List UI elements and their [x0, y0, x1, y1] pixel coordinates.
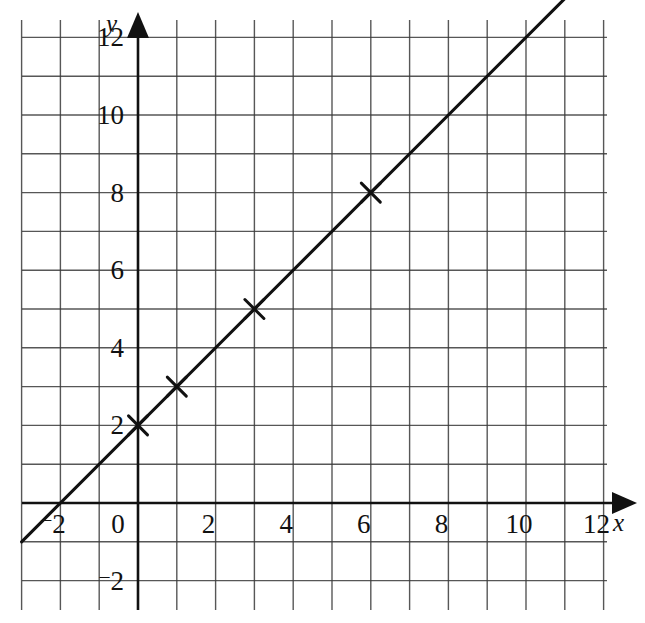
x-tick-label: 6: [357, 509, 371, 539]
x-tick-label: 2: [202, 509, 216, 539]
x-tick-label: 8: [435, 509, 449, 539]
x-axis-label: x: [612, 509, 624, 536]
y-tick-label: 8: [111, 178, 125, 208]
y-tick-label: 10: [97, 100, 124, 130]
y-tick-label: 2: [111, 410, 125, 440]
x-tick-label: 12: [583, 509, 610, 539]
x-tick-label: –2: [40, 508, 66, 539]
y-axis-arrowhead: [127, 12, 149, 38]
y-tick-label: 6: [111, 255, 125, 285]
coordinate-plane: –202468101212108642–2 x y: [0, 0, 645, 623]
x-tick-label: 10: [506, 509, 533, 539]
y-axis-label: y: [103, 10, 118, 37]
x-tick-label: 4: [279, 509, 293, 539]
y-tick-label: 4: [111, 333, 125, 363]
y-tick-label: –2: [99, 565, 125, 596]
x-tick-label: 0: [111, 509, 125, 539]
graph-figure: –202468101212108642–2 x y: [0, 0, 645, 623]
